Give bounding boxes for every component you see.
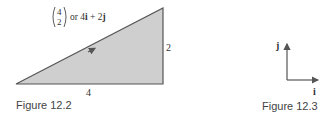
vector-notation: 4 2 or 4i + 2j — [53, 7, 106, 27]
base-label: 4 — [86, 87, 91, 98]
figure-12-3-caption: Figure 12.3 — [262, 100, 318, 112]
right-paren — [64, 7, 66, 27]
height-label: 2 — [166, 42, 171, 53]
unit-vector-axes: j i — [275, 40, 318, 97]
left-paren — [53, 7, 55, 27]
vector-expression: or 4i + 2j — [70, 12, 106, 22]
column-bottom: 2 — [57, 17, 62, 27]
i-label: i — [313, 86, 316, 97]
figure-12-2-caption: Figure 12.2 — [16, 99, 72, 111]
column-top: 4 — [57, 7, 62, 17]
j-label: j — [275, 40, 279, 51]
